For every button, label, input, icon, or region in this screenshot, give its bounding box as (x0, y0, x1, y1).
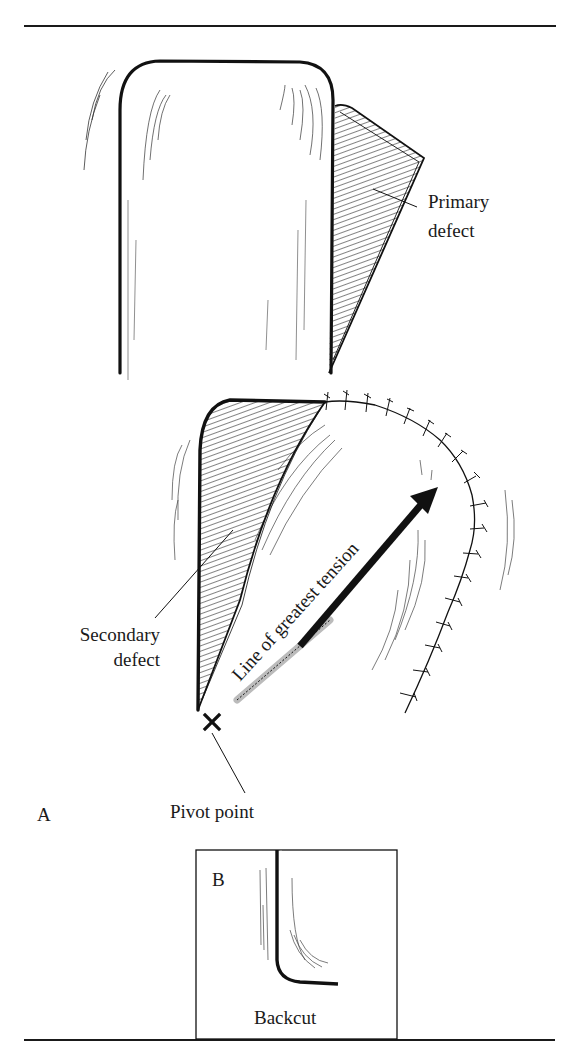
pivot-point-label: Pivot point (170, 802, 254, 821)
panel-b-label: B (212, 870, 225, 889)
backcut-drawing (260, 850, 338, 984)
panel-a-label: A (37, 805, 51, 824)
pivot-point-leader (212, 733, 245, 793)
pivot-x-icon (205, 715, 219, 729)
illustration: Line of greatest tension (0, 0, 577, 1062)
primary-defect-area (329, 105, 424, 373)
finger-drawing (84, 61, 333, 380)
flap-diagram: Line of greatest tension Primary defect … (0, 0, 577, 1062)
backcut-label: Backcut (254, 1008, 316, 1027)
primary-defect-label: Primary (428, 192, 489, 211)
primary-defect-label-line2: defect (428, 221, 474, 240)
secondary-defect-label: Secondary (80, 625, 160, 644)
secondary-defect-label-line2: defect (114, 650, 160, 669)
